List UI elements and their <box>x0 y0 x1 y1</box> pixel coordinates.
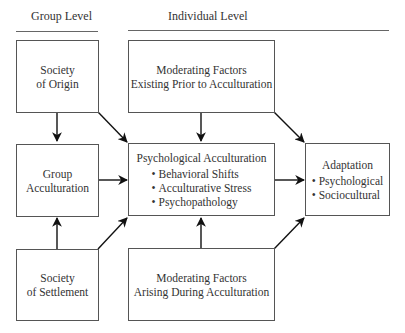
society-of-settlement-box: Society of Settlement <box>16 249 99 321</box>
list-item: Behavioral Shifts <box>152 167 252 181</box>
moderating-factors-prior-box: Moderating Factors Existing Prior to Acc… <box>128 40 275 113</box>
list-item: Psychopathology <box>152 195 252 209</box>
moderating-prior-line2: Existing Prior to Acculturation <box>131 77 273 91</box>
society-of-origin-box: Society of Origin <box>16 40 99 113</box>
society-of-settlement-line1: Society <box>40 271 75 285</box>
list-item: Acculturative Stress <box>152 181 252 195</box>
group-acculturation-line2: Acculturation <box>26 181 89 195</box>
group-acculturation-box: Group Acculturation <box>16 144 99 217</box>
arrow-origin-to-psych <box>98 112 127 142</box>
society-of-origin-line2: of Origin <box>36 77 78 91</box>
adaptation-title: Adaptation <box>322 158 373 172</box>
society-of-origin-line1: Society <box>40 63 75 77</box>
psychological-acculturation-box: Psychological Acculturation Behavioral S… <box>128 143 275 216</box>
adaptation-box: Adaptation Psychological Sociocultural <box>305 143 390 216</box>
moderating-during-line1: Moderating Factors <box>156 271 246 285</box>
adaptation-list: Psychological Sociocultural <box>312 174 383 202</box>
group-acculturation-line1: Group <box>43 167 72 181</box>
list-item: Sociocultural <box>312 188 383 202</box>
arrow-settlement-to-psych <box>98 218 127 249</box>
arrow-modprior-to-adaptation <box>274 112 304 142</box>
moderating-factors-during-box: Moderating Factors Arising During Accult… <box>128 248 275 321</box>
moderating-prior-line1: Moderating Factors <box>156 63 246 77</box>
list-item: Psychological <box>312 174 383 188</box>
moderating-during-line2: Arising During Acculturation <box>134 285 269 299</box>
society-of-settlement-line2: of Settlement <box>27 285 89 299</box>
psychological-acculturation-title: Psychological Acculturation <box>137 151 267 165</box>
psychological-acculturation-list: Behavioral Shifts Acculturative Stress P… <box>152 167 252 209</box>
arrow-modduring-to-adaptation <box>274 218 304 249</box>
